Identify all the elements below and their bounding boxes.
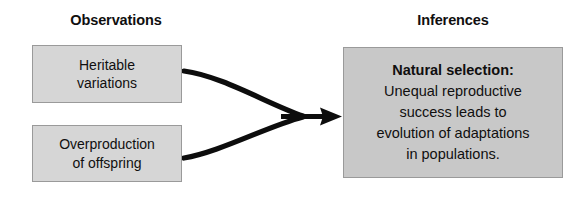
node-line: of offspring (72, 154, 141, 173)
node-line: variations (77, 74, 137, 93)
column-heading-observations: Observations (0, 13, 232, 28)
node-line-title: Natural selection: (392, 60, 514, 81)
node-line: Unequal reproductive (384, 81, 522, 102)
arrow-overproduction-to-natural-selection-path (184, 117, 303, 158)
node-line: Heritable (79, 56, 135, 75)
diagram-canvas: Observations Inferences Heritable variat… (0, 0, 581, 199)
node-line: Overproduction (59, 135, 155, 154)
node-line: success leads to (399, 102, 506, 123)
node-line: in populations. (406, 144, 500, 165)
node-natural-selection[interactable]: Natural selection: Unequal reproductive … (343, 47, 563, 178)
column-heading-inferences: Inferences (343, 13, 563, 28)
node-overproduction-of-offspring[interactable]: Overproduction of offspring (32, 125, 182, 182)
arrow-heritable-to-natural-selection-path (184, 71, 303, 116)
arrowhead-icon (320, 108, 342, 126)
node-heritable-variations[interactable]: Heritable variations (32, 45, 182, 103)
node-line: evolution of adaptations (376, 123, 529, 144)
